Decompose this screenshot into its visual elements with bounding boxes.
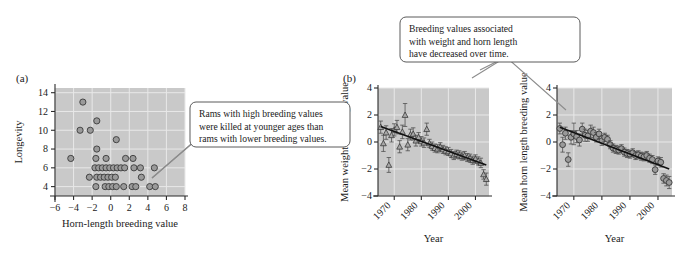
x-tick-label: 8 [183,202,188,213]
x-tick-label: 1970 [371,200,393,222]
panel-a-callout-line: Rams with high breeding values [199,108,323,119]
y-tick-label: 12 [38,106,48,117]
data-point [93,155,99,161]
y-tick-label: −2 [540,163,551,174]
x-axis-title: Year [605,233,625,244]
data-point [93,184,99,190]
x-tick-label: 1980 [398,200,420,222]
data-point [87,127,93,133]
panel-b[interactable]: (b)−4−20241970198019902000YearMean weigh… [339,72,492,244]
data-point [122,165,128,171]
x-tick-label: −4 [68,202,79,213]
data-point [112,174,118,180]
y-tick-label: 4 [546,82,551,93]
x-tick-label: 4 [145,202,150,213]
x-tick-label: 1990 [606,200,628,222]
data-point [131,165,137,171]
top-callout[interactable]: Breeding values associatedwith weight an… [400,17,580,62]
data-point [577,137,583,143]
y-tick-label: 6 [43,162,48,173]
data-point [652,167,658,173]
y-axis-title: Mean horn length breeding value [518,72,529,212]
x-tick-label: 1970 [550,200,572,222]
y-tick-label: 14 [38,87,48,98]
data-point [563,130,569,136]
figure-container: (a)468101214−6−4−202468Horn-length breed… [0,0,688,266]
data-point [113,137,119,143]
panel-a-y-axis-title: Longevity [13,120,24,164]
data-point [151,165,157,171]
y-tick-label: 10 [38,125,48,136]
panel-a-callout-line: rams with lower breeding values. [199,133,327,144]
data-point [113,184,119,190]
y-tick-label: 4 [43,181,48,192]
x-tick-label: 1990 [425,200,447,222]
panel-a-callout-line: were killed at younger ages than [199,121,324,132]
data-point [103,155,109,161]
data-point [94,146,100,152]
data-point [560,142,566,148]
data-point [121,184,127,190]
top-callout-line: with weight and horn length [409,36,517,47]
x-axis-title: Year [424,233,444,244]
y-tick-label: 2 [546,109,551,120]
y-tick-label: −2 [361,163,372,174]
x-tick-label: −6 [50,202,61,213]
data-point [137,165,143,171]
y-tick-label: 2 [367,109,372,120]
x-tick-label: 0 [108,202,113,213]
scientific-figure: (a)468101214−6−4−202468Horn-length breed… [0,0,688,266]
data-point [605,136,611,142]
panel-a[interactable]: (a)468101214−6−4−202468Horn-length breed… [13,72,188,229]
x-tick-label: 6 [164,202,169,213]
data-point [565,157,571,163]
panel-a-x-axis-title: Horn-length breeding value [62,218,178,229]
panel-c[interactable]: −4−20241970198019902000YearMean horn len… [518,72,675,244]
data-point [77,127,83,133]
y-tick-label: 0 [367,136,372,147]
panel-a-label: (a) [16,72,29,85]
x-tick-label: −2 [87,202,98,213]
y-tick-label: −4 [361,190,372,201]
data-point [130,155,136,161]
panel-a-callout[interactable]: Rams with high breeding valueswere kille… [190,102,350,147]
data-point [152,184,158,190]
x-tick-label: 1980 [578,200,600,222]
y-tick-label: 8 [43,143,48,154]
data-point [138,174,144,180]
top-callout-line: have decreased over time. [409,48,509,59]
data-point [68,155,74,161]
y-tick-label: 4 [367,82,372,93]
data-point [133,184,139,190]
panel-a-plot-background [55,88,185,196]
y-tick-label: −4 [540,190,551,201]
top-callout-line: Breeding values associated [409,23,513,34]
data-point [80,99,86,105]
data-point [122,155,128,161]
data-point [666,180,672,186]
data-point [94,118,100,124]
x-tick-label: 2000 [452,200,474,222]
y-tick-label: 0 [546,136,551,147]
data-point [86,174,92,180]
x-tick-label: 2000 [634,200,656,222]
x-tick-label: 2 [127,202,132,213]
